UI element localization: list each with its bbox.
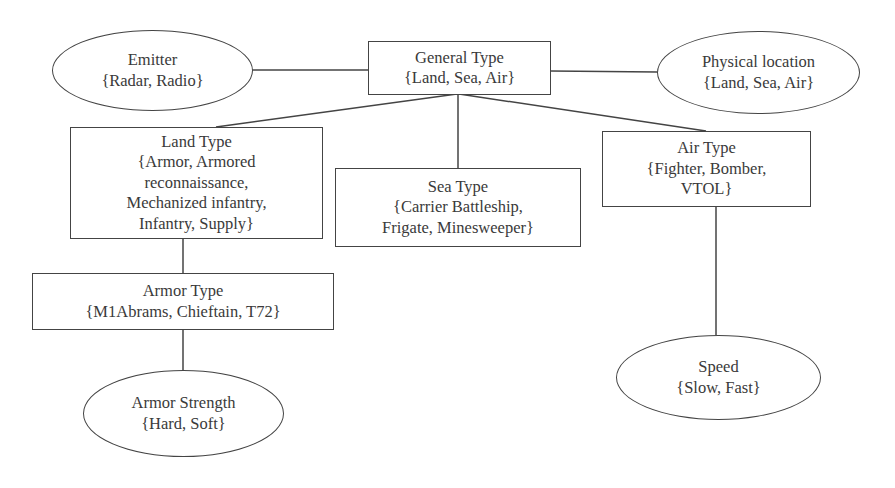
node-armor-strength: Armor Strength {Hard, Soft}: [83, 370, 284, 457]
node-title: Land Type: [161, 132, 231, 153]
node-title: Armor Strength: [131, 393, 235, 414]
edge-general-air-type: [459, 94, 706, 131]
node-values-line: Frigate, Minesweeper}: [382, 218, 534, 239]
node-values-line: {Carrier Battleship,: [393, 197, 523, 218]
node-values: {Radar, Radio}: [101, 71, 203, 92]
node-title: Armor Type: [143, 281, 224, 302]
node-values-line: Mechanized infantry,: [126, 193, 266, 214]
node-title: Sea Type: [428, 177, 488, 198]
node-sea-type: Sea Type {Carrier Battleship, Frigate, M…: [335, 168, 581, 247]
node-title: Speed: [698, 357, 738, 378]
node-physical-location: Physical location {Land, Sea, Air}: [657, 31, 860, 114]
node-emitter: Emitter {Radar, Radio}: [52, 30, 253, 111]
node-values: {Land, Sea, Air}: [404, 68, 515, 89]
node-values-line: reconnaissance,: [145, 173, 249, 194]
node-values: {Land, Sea, Air}: [703, 73, 814, 94]
node-title: Air Type: [677, 138, 736, 159]
node-values-line: VTOL}: [681, 179, 733, 200]
node-air-type: Air Type {Fighter, Bomber, VTOL}: [602, 131, 811, 207]
node-values-line: {Fighter, Bomber,: [647, 159, 767, 180]
edge-general-land-type: [216, 94, 457, 127]
node-values: {Hard, Soft}: [141, 414, 226, 435]
node-values-line: {Armor, Armored: [137, 152, 255, 173]
node-values-line: Infantry, Supply}: [139, 214, 254, 235]
node-speed: Speed {Slow, Fast}: [616, 335, 821, 420]
node-values: {M1Abrams, Chieftain, T72}: [85, 302, 280, 323]
node-title: Emitter: [128, 50, 177, 71]
node-title: General Type: [415, 48, 504, 69]
node-general-type: General Type {Land, Sea, Air}: [368, 41, 551, 95]
edge-general-physical-location: [551, 71, 657, 72]
node-land-type: Land Type {Armor, Armored reconnaissance…: [70, 127, 323, 239]
node-armor-type: Armor Type {M1Abrams, Chieftain, T72}: [32, 273, 334, 330]
node-title: Physical location: [702, 52, 815, 73]
node-values: {Slow, Fast}: [676, 378, 760, 399]
